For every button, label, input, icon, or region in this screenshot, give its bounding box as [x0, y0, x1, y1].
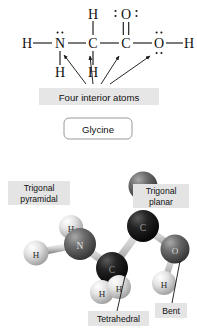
annotation-trigonal-planar: Trigonal planar — [133, 184, 189, 208]
lewis-atom-n: N — [55, 36, 65, 51]
model-label-c-alpha: C — [109, 265, 115, 275]
model-atom-c-carbonyl: C — [127, 210, 159, 242]
annotation-tetrahedral-label: Tetrahedral — [97, 314, 140, 324]
lewis-atom-h-top: H — [88, 7, 98, 22]
lone-pair-n-dot-2 — [61, 31, 63, 33]
model-label-o-hydroxyl: O — [172, 246, 179, 256]
model-label-h-hydroxyl: H — [161, 280, 168, 290]
annotation-trigonal-planar-line2: planar — [149, 197, 173, 207]
lewis-atom-h-below-c: H — [88, 65, 98, 80]
annotation-trigonal-pyramidal-line2: pyramidal — [20, 194, 57, 204]
annotation-trigonal-pyramidal-line1: Trigonal — [24, 183, 55, 193]
model-label-n: N — [77, 241, 84, 251]
four-interior-atoms-callout: Four interior atoms — [39, 88, 159, 105]
model-atom-h-n-left: H — [24, 241, 49, 266]
model-label-c-carbonyl: C — [140, 223, 146, 233]
lewis-atom-o-hydroxyl: O — [154, 36, 164, 51]
molecule-name-label: Glycine — [82, 124, 114, 135]
lone-pair-ooh-bot-1 — [156, 52, 158, 54]
lewis-atom-h-right: H — [184, 36, 194, 51]
lone-pair-ocarb-r-2 — [135, 15, 137, 17]
model-atom-o-hydroxyl: O — [161, 235, 190, 264]
annotation-trigonal-pyramidal: Trigonal pyramidal — [8, 181, 70, 205]
annotation-tetrahedral: Tetrahedral — [88, 311, 149, 326]
annotation-bent: Bent — [155, 303, 187, 318]
lone-pair-ooh-top-1 — [156, 31, 158, 33]
model-label-h-n-left: H — [33, 250, 40, 260]
model-atom-h-c-right: H — [107, 275, 131, 299]
glycine-figure: H N C C O H H O H H Four interior atoms … — [0, 0, 197, 328]
lewis-atom-c-carbonyl: C — [121, 36, 130, 51]
annotation-trigonal-planar-line1: Trigonal — [146, 186, 177, 196]
model-label-h-c-left: H — [99, 289, 106, 299]
lone-pair-n-dot-1 — [57, 31, 59, 33]
lewis-atom-h-left: H — [22, 36, 32, 51]
lone-pair-ocarb-l-2 — [114, 15, 116, 17]
model-atom-h-hydroxyl: H — [152, 271, 176, 295]
lone-pair-ooh-bot-2 — [160, 52, 162, 54]
glycine-name-badge: Glycine — [64, 118, 132, 139]
callout-label: Four interior atoms — [59, 92, 140, 103]
model-atom-n: N — [64, 228, 96, 260]
lewis-atom-c-alpha: C — [88, 36, 97, 51]
lone-pair-ooh-top-2 — [160, 31, 162, 33]
lewis-atom-o-carbonyl: O — [121, 7, 131, 22]
annotation-bent-label: Bent — [162, 306, 180, 316]
lone-pair-ocarb-l-1 — [114, 10, 116, 12]
lewis-atom-h-below-n: H — [55, 65, 65, 80]
lone-pair-ocarb-r-1 — [135, 10, 137, 12]
